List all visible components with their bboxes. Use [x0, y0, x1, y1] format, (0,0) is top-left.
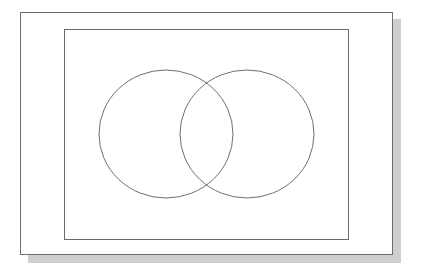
venn-diagram-figure: [0, 0, 421, 275]
venn-diagram-svg: [0, 0, 421, 275]
paper-page: [21, 13, 393, 255]
